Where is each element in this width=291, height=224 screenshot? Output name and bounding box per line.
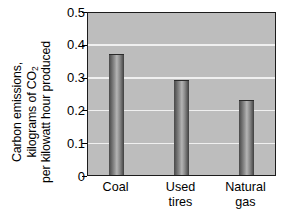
x-tick-label-coal-line-1: Coal	[81, 180, 151, 195]
x-tick-label-coal: Coal	[81, 180, 151, 195]
bar-coal	[109, 54, 124, 175]
x-tick-label-natural-gas-line-1: Natural	[211, 180, 281, 195]
bar-used-tires	[174, 80, 189, 175]
x-tick-label-used-tires: Used tires	[146, 180, 216, 209]
bar-chart: Carbon emissions, kilograms of CO2 per k…	[0, 0, 291, 224]
y-axis-title-line-2-text: kilograms of CO	[25, 71, 39, 158]
x-tick-label-used-tires-line-1: Used	[146, 180, 216, 195]
x-axis-tick-labels: Coal Used tires Natural gas	[87, 180, 276, 224]
gridline-0.4	[88, 44, 275, 46]
bar-natural-gas	[239, 100, 254, 175]
y-axis-title-line-3: per kilowatt hour produced	[39, 41, 54, 183]
x-tick-label-natural-gas-line-2: gas	[211, 195, 281, 210]
co2-subscript: 2	[30, 66, 40, 71]
x-tick-label-used-tires-line-2: tires	[146, 195, 216, 210]
x-tick-label-natural-gas: Natural gas	[211, 180, 281, 209]
y-axis-title: Carbon emissions, kilograms of CO2 per k…	[3, 22, 61, 202]
plot-area	[87, 12, 276, 176]
y-tick-mark-5	[82, 176, 87, 177]
y-axis-title-line-2: kilograms of CO2	[25, 66, 40, 157]
y-axis-title-line-1: Carbon emissions,	[10, 62, 25, 162]
